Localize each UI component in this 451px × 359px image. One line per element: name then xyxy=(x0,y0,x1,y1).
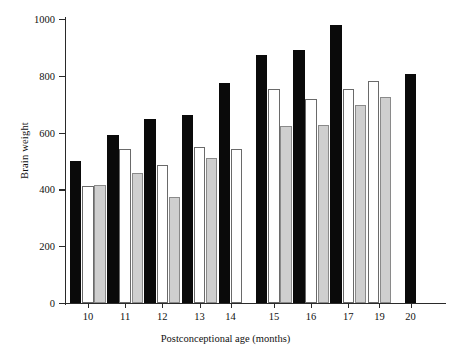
bar-chart-figure: Brain weight 02004006008001000 101112131… xyxy=(0,0,451,359)
x-tick-mark xyxy=(311,303,312,308)
bar-gray-11 xyxy=(132,173,143,303)
x-tick-label-10: 10 xyxy=(83,311,94,322)
y-tick-mark xyxy=(59,246,66,247)
bar-black-12 xyxy=(144,119,155,303)
bar-black-16 xyxy=(293,50,304,303)
y-tick-mark xyxy=(59,303,66,304)
x-tick-mark xyxy=(88,303,89,308)
bar-gray-10 xyxy=(94,185,105,303)
bar-black-15 xyxy=(256,55,267,303)
bar-white-11 xyxy=(119,149,130,303)
y-tick-label: 1000 xyxy=(34,14,55,25)
bar-white-14 xyxy=(231,149,242,303)
bar-white-12 xyxy=(157,165,168,303)
bar-gray-19 xyxy=(380,97,391,303)
x-tick-mark xyxy=(231,303,232,308)
x-tick-mark xyxy=(125,303,126,308)
bar-white-19 xyxy=(368,81,379,303)
bar-gray-16 xyxy=(318,125,329,303)
x-tick-label-17: 17 xyxy=(343,311,354,322)
bar-black-20 xyxy=(405,74,416,303)
y-tick-mark xyxy=(59,76,66,77)
y-axis-title: Brain weight xyxy=(19,91,30,211)
x-tick-label-12: 12 xyxy=(157,311,168,322)
plot-area: 02004006008001000 xyxy=(66,19,446,303)
x-tick-label-15: 15 xyxy=(269,311,280,322)
y-tick-label: 800 xyxy=(39,70,55,81)
bar-white-10 xyxy=(82,186,93,303)
x-tick-label-11: 11 xyxy=(120,311,130,322)
bar-white-16 xyxy=(305,99,316,303)
bar-black-14 xyxy=(219,83,230,303)
x-tick-mark xyxy=(411,303,412,308)
bar-black-11 xyxy=(107,135,118,303)
bar-black-13 xyxy=(182,115,193,303)
bar-white-15 xyxy=(268,89,279,303)
bar-black-10 xyxy=(70,161,81,303)
x-tick-mark xyxy=(200,303,201,308)
x-axis-title: Postconceptional age (months) xyxy=(0,333,451,344)
y-tick-mark xyxy=(59,19,66,20)
y-tick-mark xyxy=(59,189,66,190)
bar-gray-13 xyxy=(206,158,217,303)
x-tick-label-13: 13 xyxy=(194,311,205,322)
x-axis-line xyxy=(65,303,446,304)
x-tick-label-20: 20 xyxy=(405,311,416,322)
bar-gray-15 xyxy=(280,126,291,304)
y-tick-label: 400 xyxy=(39,184,55,195)
bar-white-13 xyxy=(194,147,205,303)
bar-white-17 xyxy=(343,89,354,303)
y-tick-label: 200 xyxy=(39,241,55,252)
bar-black-17 xyxy=(330,25,341,303)
x-tick-label-14: 14 xyxy=(225,311,236,322)
x-tick-label-16: 16 xyxy=(306,311,317,322)
x-tick-mark xyxy=(379,303,380,308)
bar-gray-17 xyxy=(355,105,366,303)
y-tick-label: 0 xyxy=(50,298,55,309)
y-tick-mark xyxy=(59,133,66,134)
bar-gray-12 xyxy=(169,197,180,304)
x-tick-label-19: 19 xyxy=(374,311,385,322)
x-tick-mark xyxy=(162,303,163,308)
x-tick-mark xyxy=(274,303,275,308)
y-tick-label: 600 xyxy=(39,127,55,138)
x-tick-mark xyxy=(348,303,349,308)
